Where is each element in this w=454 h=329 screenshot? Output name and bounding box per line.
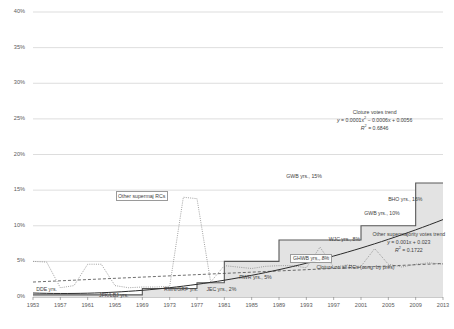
equation-formula: y = 0.001x + 0.023 bbox=[354, 239, 454, 247]
equation-r2: R2 = 0.6846 bbox=[320, 124, 430, 132]
annotation-ghwb: GHWB yrs., 8% bbox=[290, 254, 331, 264]
axis-lines bbox=[33, 297, 443, 300]
x-tick-1977: 1977 bbox=[184, 302, 210, 308]
y-tick-0: 0% bbox=[3, 293, 25, 299]
y-tick-10: 10% bbox=[3, 222, 25, 228]
y-tick-35: 35% bbox=[3, 44, 25, 50]
y-tick-30: 30% bbox=[3, 79, 25, 85]
equation-formula: y = 0.0001x2 − 0.0006x + 0.0056 bbox=[320, 116, 430, 124]
x-tick-1985: 1985 bbox=[239, 302, 265, 308]
annotation-gwb-high: GWB yrs., 15% bbox=[286, 173, 321, 180]
x-tick-2005: 2005 bbox=[375, 302, 401, 308]
y-tick-5: 5% bbox=[3, 257, 25, 263]
x-tick-1957: 1957 bbox=[47, 302, 73, 308]
equation-other-supermajority-votes-trend: Other supermajority votes trendy = 0.001… bbox=[354, 231, 454, 254]
x-tick-1965: 1965 bbox=[102, 302, 128, 308]
annotation-jec: JEC yrs., 2% bbox=[206, 286, 236, 293]
annotation-other-supermaj-rcs: Other supermaj RCs bbox=[116, 191, 168, 201]
x-tick-1961: 1961 bbox=[75, 302, 101, 308]
y-tick-20: 20% bbox=[3, 151, 25, 157]
x-tick-2009: 2009 bbox=[403, 302, 429, 308]
x-tick-1953: 1953 bbox=[20, 302, 46, 308]
annotation-bho: BHO yrs., 16% bbox=[388, 196, 422, 203]
equation-cloture-votes-trend: Cloture votes trendy = 0.0001x2 − 0.0006… bbox=[320, 109, 430, 133]
x-tick-1969: 1969 bbox=[129, 302, 155, 308]
annotation-cloture-all-rcs: Cloture on all RCs (cong. by pres) bbox=[316, 264, 394, 271]
y-tick-40: 40% bbox=[3, 8, 25, 14]
annotation-gwb-low: GWB yrs., 10% bbox=[364, 210, 399, 217]
equation-r2: R2 = 0.1722 bbox=[354, 246, 454, 254]
x-tick-1997: 1997 bbox=[321, 302, 347, 308]
x-tick-1993: 1993 bbox=[293, 302, 319, 308]
y-tick-15: 15% bbox=[3, 186, 25, 192]
y-tick-25: 25% bbox=[3, 115, 25, 121]
annotation-rmn-grf: RMN/GRF yrs. bbox=[164, 286, 198, 293]
gridlines bbox=[33, 12, 443, 261]
x-tick-1989: 1989 bbox=[266, 302, 292, 308]
x-tick-2013: 2013 bbox=[430, 302, 454, 308]
x-tick-2001: 2001 bbox=[348, 302, 374, 308]
annotation-jfk-lbj: JFK/LBJ yrs. bbox=[99, 292, 128, 299]
x-tick-1973: 1973 bbox=[157, 302, 183, 308]
annotation-doe: DDE yrs. bbox=[36, 286, 57, 293]
x-tick-1981: 1981 bbox=[211, 302, 237, 308]
annotation-rwr: RWR yrs., 5% bbox=[239, 274, 271, 281]
equation-title: Cloture votes trend bbox=[320, 109, 430, 117]
equation-title: Other supermajority votes trend bbox=[354, 231, 454, 239]
